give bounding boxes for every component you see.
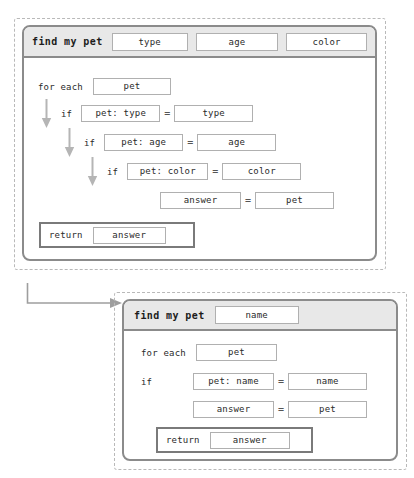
equals-operator: = [274, 404, 288, 415]
function-body-refactored: for each pet if pet: name = name answer … [124, 331, 396, 461]
condition-right-slot[interactable]: name [288, 373, 367, 390]
for-each-keyword: for each [38, 82, 83, 92]
diagram-canvas: find my pet type age color for each pet … [0, 0, 414, 478]
for-each-keyword: for each [141, 348, 186, 358]
down-arrow-icon [41, 99, 52, 129]
equals-operator: = [160, 108, 174, 119]
function-header-original: find my pet type age color [24, 27, 375, 58]
if-keyword: if [84, 138, 95, 148]
return-keyword: return [49, 230, 83, 240]
loop-variable-slot[interactable]: pet [93, 78, 171, 95]
function-body-original: for each pet if pet: type = type if [24, 58, 375, 261]
down-arrow-icon [64, 128, 75, 158]
for-each-row-original: for each pet [38, 78, 171, 95]
if-row-name: if pet: name = name [141, 373, 367, 390]
condition-left-slot[interactable]: pet: color [127, 163, 208, 180]
parameter-slot-color[interactable]: color [286, 33, 367, 51]
equals-operator: = [208, 166, 222, 177]
equals-operator: = [241, 195, 255, 206]
if-row-age: if pet: age = age [84, 134, 276, 151]
return-block-refactored: return answer [156, 427, 313, 453]
elbow-arrow-icon [26, 282, 124, 310]
assignment-row-refactored: answer = pet [193, 401, 367, 418]
condition-left-slot[interactable]: pet: type [81, 105, 160, 122]
condition-right-slot[interactable]: type [174, 105, 253, 122]
assignment-target-slot[interactable]: answer [193, 401, 274, 418]
loop-variable-slot[interactable]: pet [196, 344, 277, 361]
function-name-label: find my pet [32, 36, 103, 47]
return-keyword: return [166, 435, 200, 445]
if-keyword: if [141, 377, 193, 387]
program-card-original: find my pet type age color for each pet … [22, 25, 377, 261]
if-row-type: if pet: type = type [61, 105, 253, 122]
assignment-target-slot[interactable]: answer [160, 192, 241, 209]
condition-left-slot[interactable]: pet: name [193, 373, 274, 390]
equals-operator: = [183, 137, 197, 148]
condition-left-slot[interactable]: pet: age [104, 134, 183, 151]
parameter-slot-name[interactable]: name [215, 306, 299, 324]
parameter-slot-age[interactable]: age [196, 33, 279, 51]
return-value-slot[interactable]: answer [210, 432, 290, 449]
function-header-refactored: find my pet name [124, 301, 396, 331]
assignment-row-original: answer = pet [160, 192, 334, 209]
program-card-refactored: find my pet name for each pet if pet: na… [122, 299, 398, 461]
assignment-value-slot[interactable]: pet [255, 192, 334, 209]
return-value-slot[interactable]: answer [93, 227, 166, 244]
if-keyword: if [61, 109, 72, 119]
down-arrow-icon [87, 157, 98, 187]
for-each-row-refactored: for each pet [141, 344, 277, 361]
condition-right-slot[interactable]: color [222, 163, 301, 180]
function-name-label: find my pet [134, 310, 205, 321]
parameter-slot-type[interactable]: type [112, 33, 188, 51]
assignment-value-slot[interactable]: pet [288, 401, 367, 418]
equals-operator: = [274, 376, 288, 387]
return-block-original: return answer [39, 222, 195, 248]
condition-right-slot[interactable]: age [197, 134, 276, 151]
if-keyword: if [107, 167, 118, 177]
if-row-color: if pet: color = color [107, 163, 301, 180]
